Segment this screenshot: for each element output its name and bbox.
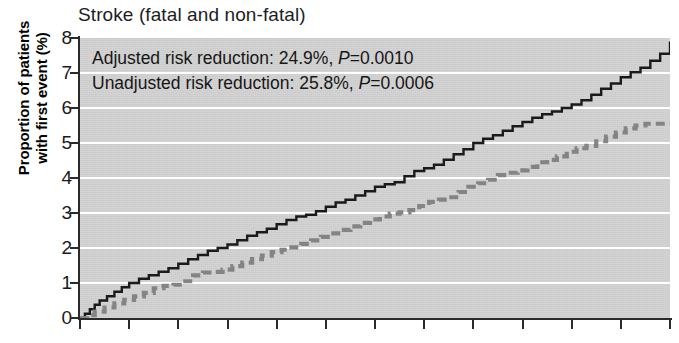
statistics-annotation: Adjusted risk reduction: 24.9%, P=0.0010… <box>92 46 434 96</box>
y-tick-mark-7 <box>70 72 79 74</box>
y-tick-mark-1 <box>70 282 79 284</box>
x-tick-mark-3 <box>227 320 229 329</box>
y-axis-title-line-1: Proportion of patients <box>15 0 33 198</box>
y-tick-label-3: 3 <box>50 203 72 222</box>
y-tick-mark-3 <box>70 212 79 214</box>
y-tick-mark-2 <box>70 247 79 249</box>
x-tick-mark-4 <box>276 320 278 329</box>
y-tick-mark-5 <box>70 142 79 144</box>
y-axis-tick-labels: 012345678 <box>48 0 72 343</box>
annotation-adjusted-p-symbol: P <box>338 48 350 68</box>
y-tick-label-8: 8 <box>50 28 72 47</box>
annotation-line-unadjusted: Unadjusted risk reduction: 25.8%, P=0.00… <box>92 71 434 96</box>
x-tick-mark-9 <box>522 320 524 329</box>
y-tick-mark-8 <box>70 37 79 39</box>
y-tick-label-7: 7 <box>50 63 72 82</box>
annotation-adjusted-prefix: Adjusted risk reduction: 24.9%, <box>92 48 338 68</box>
y-tick-mark-0 <box>70 317 79 319</box>
annotation-unadjusted-p-symbol: P <box>359 73 371 93</box>
stroke-kaplan-meier-figure: Stroke (fatal and non-fatal) Proportion … <box>0 0 679 343</box>
chart-title: Stroke (fatal and non-fatal) <box>78 4 306 26</box>
x-tick-mark-11 <box>620 320 622 329</box>
series-treatment-line <box>80 124 670 318</box>
y-tick-label-1: 1 <box>50 273 72 292</box>
x-tick-mark-5 <box>325 320 327 329</box>
x-tick-mark-1 <box>128 320 130 329</box>
x-tick-mark-2 <box>177 320 179 329</box>
x-tick-mark-10 <box>571 320 573 329</box>
y-tick-label-6: 6 <box>50 98 72 117</box>
annotation-line-adjusted: Adjusted risk reduction: 24.9%, P=0.0010 <box>92 46 434 71</box>
annotation-unadjusted-p-value: =0.0006 <box>370 73 434 93</box>
x-tick-mark-7 <box>423 320 425 329</box>
x-tick-mark-12 <box>669 320 671 329</box>
x-tick-mark-6 <box>374 320 376 329</box>
y-tick-label-4: 4 <box>50 168 72 187</box>
y-tick-label-5: 5 <box>50 133 72 152</box>
y-tick-mark-4 <box>70 177 79 179</box>
y-tick-mark-6 <box>70 107 79 109</box>
annotation-adjusted-p-value: =0.0010 <box>350 48 414 68</box>
x-tick-mark-8 <box>472 320 474 329</box>
y-tick-label-0: 0 <box>50 308 72 327</box>
y-tick-label-2: 2 <box>50 238 72 257</box>
x-tick-mark-0 <box>79 320 81 329</box>
annotation-unadjusted-prefix: Unadjusted risk reduction: 25.8%, <box>92 73 359 93</box>
